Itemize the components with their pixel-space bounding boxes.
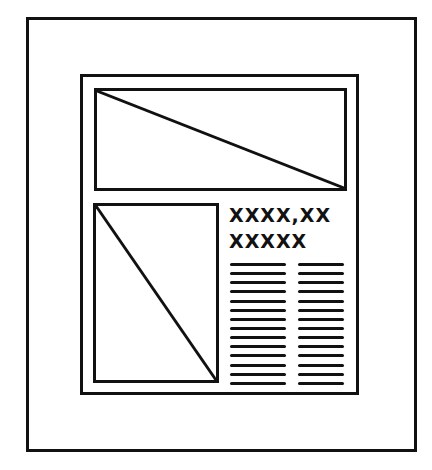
text-column-1 (230, 263, 286, 385)
text-column-2 (298, 263, 344, 385)
text-line (230, 318, 286, 321)
text-line (230, 272, 286, 275)
text-line (298, 336, 344, 339)
text-line (230, 364, 286, 367)
text-line (230, 300, 286, 303)
text-line (298, 281, 344, 284)
text-line (298, 318, 344, 321)
text-line (230, 290, 286, 293)
text-line (230, 336, 286, 339)
text-line (230, 281, 286, 284)
diagonal-line-icon (96, 206, 216, 380)
text-line (298, 327, 344, 330)
text-line (230, 263, 286, 266)
text-line (298, 272, 344, 275)
text-line (298, 263, 344, 266)
left-image-placeholder (93, 203, 219, 383)
headline-line-2: XXXXX (229, 232, 307, 251)
text-line (298, 309, 344, 312)
text-line (230, 327, 286, 330)
text-line (298, 345, 344, 348)
text-line (230, 354, 286, 357)
top-image-placeholder (94, 88, 347, 191)
text-line (230, 373, 286, 376)
text-line (298, 300, 344, 303)
text-line (298, 382, 344, 385)
text-line (298, 373, 344, 376)
text-line (298, 290, 344, 293)
headline-line-1: XXXX,XX (229, 206, 331, 225)
diagonal-line-icon (97, 91, 344, 188)
text-line (230, 309, 286, 312)
text-line (298, 354, 344, 357)
text-line (230, 382, 286, 385)
text-line (298, 364, 344, 367)
text-line (230, 345, 286, 348)
